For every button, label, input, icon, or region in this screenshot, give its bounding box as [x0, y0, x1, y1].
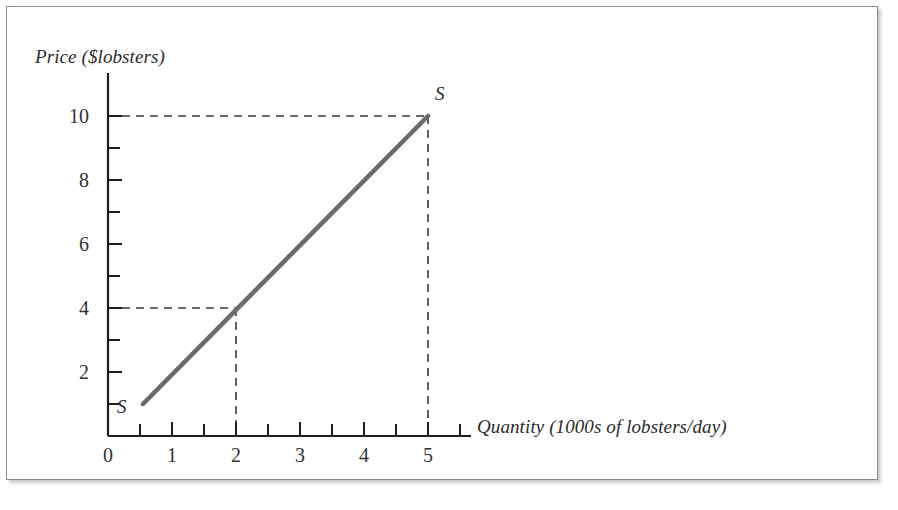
y-axis-title: Price ($lobsters) — [35, 46, 165, 68]
x-axis-title: Quantity (1000s of lobsters/day) — [477, 416, 727, 438]
y-axis-ticks — [108, 116, 122, 404]
y-tick-label-6: 6 — [51, 233, 89, 255]
supply-curve-label-bottom: S — [117, 396, 127, 418]
x-tick-label-0: 0 — [93, 444, 123, 467]
x-tick-label-4: 4 — [349, 444, 379, 467]
x-tick-label-2: 2 — [221, 444, 251, 467]
supply-curve-chart: Price ($lobsters) Quantity (1000s of lob… — [7, 7, 879, 481]
supply-curve-line — [143, 116, 428, 404]
x-tick-label-5: 5 — [413, 444, 443, 467]
y-tick-label-8: 8 — [51, 169, 89, 191]
supply-curve-label-top: S — [435, 83, 445, 105]
x-axis-ticks — [140, 422, 460, 436]
chart-canvas — [7, 7, 879, 481]
y-tick-label-4: 4 — [51, 297, 89, 319]
x-tick-label-1: 1 — [157, 444, 187, 467]
y-tick-label-10: 10 — [51, 105, 89, 127]
x-tick-label-3: 3 — [285, 444, 315, 467]
figure-frame: Price ($lobsters) Quantity (1000s of lob… — [6, 6, 878, 480]
y-tick-label-2: 2 — [51, 361, 89, 383]
